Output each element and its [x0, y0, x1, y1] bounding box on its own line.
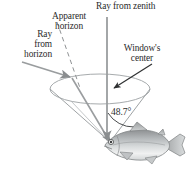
window-ellipse	[50, 74, 150, 104]
fish-adipose-fin	[158, 129, 165, 135]
ray-from-horizon-label: Ray from horizon	[4, 30, 52, 60]
cone-edge-front	[71, 101, 110, 142]
diagram-canvas	[0, 0, 192, 171]
apparent-horizon-label: Apparent horizon	[52, 12, 86, 32]
horizon-ray-incident	[22, 62, 70, 77]
fish-window-diagram: Ray from zenith Apparent horizon Ray fro…	[0, 0, 192, 171]
window-center-arrow	[114, 64, 152, 88]
horizon-ray-refracted	[72, 78, 110, 142]
angle-label: 48.7°	[111, 107, 131, 117]
fish-illustration	[104, 122, 185, 164]
ray-from-zenith-label: Ray from zenith	[96, 2, 155, 12]
cone-edge-left	[50, 89, 110, 142]
fish-pupil	[110, 141, 112, 143]
windows-center-label: Window's center	[113, 44, 171, 64]
